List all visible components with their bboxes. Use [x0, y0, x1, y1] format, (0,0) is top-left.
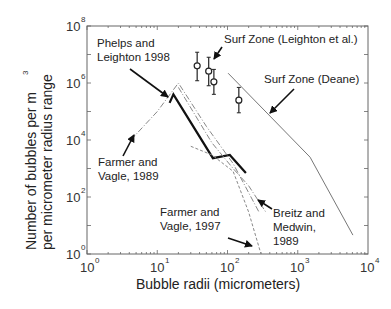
annotation-bm-line3: 1989	[273, 235, 299, 247]
svg-text:4: 4	[81, 129, 86, 138]
series-surf-zone-leighton-et-al	[194, 52, 242, 113]
svg-text:3: 3	[305, 256, 310, 265]
x-axis-label: Bubble radii (micrometers)	[136, 276, 300, 292]
svg-text:2: 2	[81, 186, 86, 195]
svg-text:3: 3	[21, 70, 30, 75]
arrow-leighton-icon	[214, 47, 222, 59]
data-point-marker	[211, 79, 217, 85]
arrow-fv89-icon	[123, 135, 134, 156]
annotation-phelps-line2: Leighton 1998	[97, 51, 170, 63]
annotation-bm-line1: Breitz and	[273, 207, 325, 219]
y-tick-1e6: 10	[66, 76, 80, 91]
svg-text:8: 8	[81, 15, 86, 24]
arrow-bm-icon	[258, 200, 272, 209]
svg-text:Number of bubbles per m: Number of bubbles per m	[23, 92, 39, 250]
svg-text:6: 6	[81, 72, 86, 81]
annotation-phelps-line1: Phelps and	[97, 37, 155, 49]
svg-text:4: 4	[375, 256, 380, 265]
svg-text:2: 2	[235, 256, 240, 265]
y-tick-1e4: 10	[66, 133, 80, 148]
series-farmer-and-vagle-1997	[191, 146, 261, 254]
y-axis-label: Number of bubbles per m 3 per micrometer…	[21, 70, 55, 250]
bubble-size-distribution-chart: 10 0 10 2 10 4 10 6 10 8 10 0 10 1 10 2 …	[0, 0, 391, 309]
svg-text:0: 0	[81, 243, 86, 252]
x-tick-1e4: 10	[360, 260, 374, 275]
x-tick-1e0: 10	[80, 260, 94, 275]
data-point-marker	[236, 97, 242, 103]
annotation-leighton: Surf Zone (Leighton et al.)	[224, 33, 358, 45]
arrow-fv97-icon	[228, 238, 252, 246]
x-tick-1e1: 10	[150, 260, 164, 275]
y-axis-tick-labels: 10 0 10 2 10 4 10 6 10 8	[66, 15, 86, 262]
arrow-deane-icon	[270, 89, 294, 113]
annotation-bm-line2: Medwin,	[273, 221, 316, 233]
x-tick-1e3: 10	[290, 260, 304, 275]
annotation-fv97-line1: Farmer and	[160, 206, 219, 218]
annotation-fv97-line2: Vagle, 1997	[160, 220, 221, 232]
svg-text:1: 1	[165, 256, 170, 265]
series-phelps-and-leighton-1998	[170, 94, 246, 173]
y-tick-1e8: 10	[66, 19, 80, 34]
annotation-fv89-line2: Vagle, 1989	[98, 170, 159, 182]
x-tick-1e2: 10	[220, 260, 234, 275]
arrow-phelps-icon	[130, 69, 168, 97]
svg-text:0: 0	[95, 256, 100, 265]
svg-text:per micrometer radius range: per micrometer radius range	[39, 74, 55, 250]
annotation-deane: Surf Zone (Deane)	[264, 73, 359, 85]
data-point-marker	[206, 68, 212, 74]
x-axis-tick-labels: 10 0 10 1 10 2 10 3 10 4	[80, 256, 380, 275]
y-tick-1e0: 10	[66, 247, 80, 262]
data-point-marker	[194, 63, 200, 69]
annotation-fv89-line1: Farmer and	[98, 156, 157, 168]
y-tick-1e2: 10	[66, 190, 80, 205]
series-breitz-and-medwin-1989	[178, 87, 265, 211]
annotations: Phelps and Leighton 1998 Surf Zone (Leig…	[97, 33, 359, 247]
